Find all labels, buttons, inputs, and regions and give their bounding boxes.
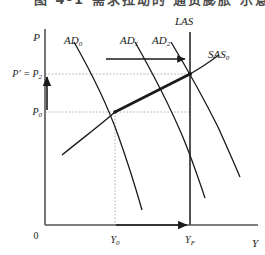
label-price-p0: P0 [31, 106, 42, 119]
label-x-axis-output: Y [252, 237, 260, 249]
label-origin: 0 [34, 230, 39, 241]
ad-as-diagram: AD0 AD1 AD2 LAS SAS0 P Y 0 P′ = P2 P0 Y0… [0, 7, 265, 255]
caption-text: 图 4-1 需求拉动的 通货膨胀 示意图 [34, 0, 265, 7]
curve-aggregate-demand-0 [74, 42, 142, 210]
label-price-p-star: P′ = P2 [11, 68, 42, 81]
label-short-run-aggregate-supply-0: SAS0 [208, 48, 230, 62]
label-output-y0: Y0 [110, 234, 120, 247]
label-y-axis-price: P [32, 31, 40, 43]
guide-lines [45, 74, 190, 225]
label-aggregate-demand-0: AD0 [63, 34, 83, 48]
equilibrium-point-new [188, 72, 192, 76]
figure-page: 图 4-1 需求拉动的 通货膨胀 示意图 [0, 0, 265, 255]
diagram-svg: AD0 AD1 AD2 LAS SAS0 P Y 0 P′ = P2 P0 Y0… [0, 7, 265, 255]
curve-aggregate-demand-1 [135, 42, 205, 198]
equilibrium-point-initial [113, 110, 117, 114]
curve-aggregate-demand-2 [171, 42, 240, 177]
sas-curve-group [62, 55, 219, 155]
label-output-yf: YF [185, 234, 196, 247]
cut-off-caption-strip: 图 4-1 需求拉动的 通货膨胀 示意图 [0, 0, 265, 7]
curve-sas-lower [62, 112, 115, 155]
label-aggregate-demand-1: AD1 [119, 34, 138, 48]
label-long-run-aggregate-supply: LAS [174, 15, 194, 27]
label-aggregate-demand-2: AD2 [151, 34, 171, 48]
curve-sas-adjustment-path [115, 74, 190, 112]
